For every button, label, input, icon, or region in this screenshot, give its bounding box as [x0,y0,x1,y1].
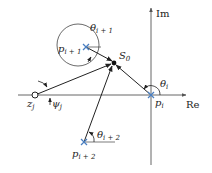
theta-i-label: θi [160,78,168,91]
theta-i1-label: θi + 1 [90,22,113,35]
circle-direction-arrow-icon [88,57,91,62]
zj-label: zj [26,98,35,111]
zero-zj-marker-icon [32,92,38,98]
imag-axis-label: Im [156,8,170,19]
theta-i2-arc [89,132,94,142]
pi-label: pi [155,97,164,110]
theta-i2-label: θi + 2 [97,129,121,142]
psi-j-label: ψj [52,98,63,111]
root-locus-diagram: Re Im S0 θi pi pi + 1 θi + 1 pi + 2 θi +… [0,0,212,173]
vector-pi-to-s0 [116,65,151,95]
s0-point [112,61,117,66]
psi-j-arc-top [38,81,47,87]
real-axis-label: Re [186,99,200,110]
pi2-label: pi + 2 [72,148,96,161]
s0-label: S0 [119,50,131,63]
vector-zj-to-s0 [35,64,111,95]
pi1-label: pi + 1 [58,43,81,56]
